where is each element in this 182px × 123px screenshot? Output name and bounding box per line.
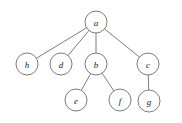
tree-node-c[interactable]: c: [137, 53, 159, 75]
tree-node-f[interactable]: f: [109, 89, 131, 111]
tree-node-label-g: g: [147, 97, 152, 107]
tree-edge-b-f: [102, 73, 114, 91]
tree-node-g[interactable]: g: [138, 90, 160, 112]
tree-node-a[interactable]: a: [85, 11, 107, 33]
tree-node-e[interactable]: e: [65, 89, 87, 111]
tree-node-h[interactable]: h: [16, 53, 38, 75]
tree-edge-b-e: [81, 74, 90, 91]
tree-node-label-d: d: [59, 60, 64, 70]
tree-node-label-a: a: [94, 18, 99, 28]
tree-node-label-b: b: [94, 60, 99, 70]
tree-node-b[interactable]: b: [85, 53, 107, 75]
tree-node-label-c: c: [146, 60, 150, 70]
tree-node-label-h: h: [25, 60, 30, 70]
node-layer: ahdbcefg: [16, 11, 160, 112]
tree-node-label-e: e: [74, 96, 78, 106]
tree-diagram-canvas: ahdbcefg: [0, 0, 182, 123]
tree-edge-a-d: [68, 30, 89, 55]
tree-edge-a-c: [105, 29, 140, 57]
tree-node-d[interactable]: d: [50, 53, 72, 75]
tree-diagram-figure: ahdbcefg: [0, 0, 182, 123]
